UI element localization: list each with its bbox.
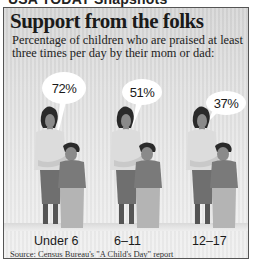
mother-and-child-figure xyxy=(168,94,248,234)
category-label: 6–11 xyxy=(114,234,141,248)
category-label: 12–17 xyxy=(192,234,227,248)
source-note: Source: Census Bureau's "A Child's Day" … xyxy=(10,249,173,259)
mother-and-child-figure xyxy=(16,94,96,234)
chart-frame: Support from the folks Percentage of chi… xyxy=(3,7,249,259)
group-6-11: 51% xyxy=(92,58,172,238)
section-label: USA TODAY Snapshots xyxy=(8,0,167,7)
chart-subtitle: Percentage of children who are praised a… xyxy=(12,34,248,60)
mother-and-child-figure xyxy=(92,94,172,234)
group-under-6: 72% xyxy=(16,58,96,238)
category-label: Under 6 xyxy=(34,234,78,248)
group-12-17: 37% xyxy=(168,58,248,238)
chart-title: Support from the folks xyxy=(10,9,203,34)
